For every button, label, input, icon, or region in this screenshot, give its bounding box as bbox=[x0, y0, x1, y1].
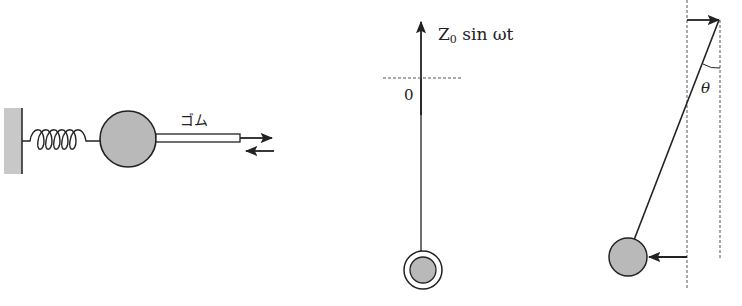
angle-arc bbox=[703, 64, 720, 68]
origin-label: 0 bbox=[404, 86, 414, 104]
mass-ball bbox=[100, 111, 156, 167]
bob-ball bbox=[609, 238, 647, 276]
figure-horizontal-drive: θ bbox=[609, 0, 720, 290]
drive-label: Z0 sin ωt bbox=[438, 24, 514, 46]
physics-diagram: ゴム Z0 sin ωt 0 θ bbox=[0, 0, 742, 306]
pendulum-string bbox=[634, 20, 719, 240]
figure-spring-mass: ゴム bbox=[4, 108, 274, 174]
bob-ball bbox=[410, 257, 436, 283]
spring-icon bbox=[22, 130, 100, 150]
figure-vertical-drive: Z0 sin ωt 0 bbox=[383, 22, 514, 289]
rubber-label: ゴム bbox=[180, 112, 208, 128]
rubber-band bbox=[156, 134, 240, 142]
wall bbox=[4, 108, 22, 174]
angle-label: θ bbox=[701, 79, 710, 97]
